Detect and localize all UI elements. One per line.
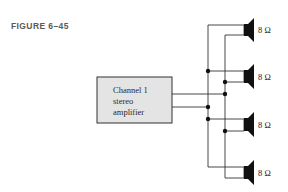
- amplifier-label-line1: Channel 1: [113, 85, 148, 95]
- speaker-icon: [244, 112, 254, 137]
- speaker-1: 8 Ω: [244, 18, 271, 42]
- speaker-2-impedance: 8 Ω: [258, 72, 271, 82]
- speaker-1-impedance: 8 Ω: [258, 25, 271, 35]
- speaker-3-impedance: 8 Ω: [258, 120, 271, 130]
- speaker-wiring-diagram: Channel 1 stereo amplifier: [0, 0, 288, 192]
- speaker-3: 8 Ω: [244, 112, 271, 137]
- speaker-4: 8 Ω: [244, 160, 271, 185]
- wiring: [172, 25, 244, 178]
- speaker-icon: [244, 18, 254, 42]
- amplifier-block: Channel 1 stereo amplifier: [97, 77, 172, 123]
- speaker-icon: [244, 160, 254, 185]
- speaker-4-impedance: 8 Ω: [258, 168, 271, 178]
- amplifier-label-line2: stereo: [113, 96, 133, 106]
- speaker-2: 8 Ω: [244, 64, 271, 89]
- junction-dots: [206, 69, 227, 133]
- amplifier-label-line3: amplifier: [113, 107, 144, 117]
- speaker-icon: [244, 64, 254, 89]
